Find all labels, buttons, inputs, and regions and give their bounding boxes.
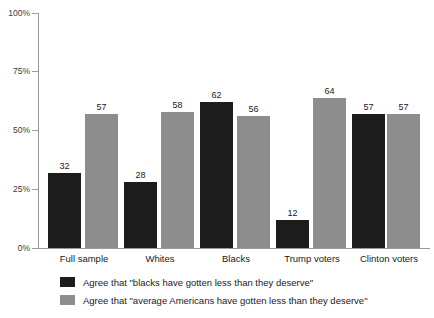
- x-axis-label-blacks: Blacks: [200, 253, 272, 265]
- x-axis-label-full-sample: Full sample: [48, 253, 120, 265]
- bar-label-blacks-series1: 62: [211, 90, 221, 100]
- bar-group-clinton-voters: 57 57: [352, 13, 424, 248]
- bar-group-whites: 28 58: [124, 13, 196, 248]
- bar-group-trump-voters: 12 64: [276, 13, 348, 248]
- legend-label-series1: Agree that "blacks have gotten less than…: [83, 277, 313, 288]
- bar-label-whites-series2: 58: [172, 100, 182, 110]
- bar-label-whites-series1: 28: [135, 170, 145, 180]
- plot-area: 32 57 28 58 62 56 12: [38, 13, 430, 248]
- bar-clinton-voters-series1[interactable]: 57: [352, 114, 385, 248]
- bar-chart: 0% 25% 50% 75% 100% 32 57 28 58 62: [0, 0, 434, 318]
- legend-swatch-series2: [60, 295, 75, 305]
- bar-whites-series1[interactable]: 28: [124, 182, 157, 248]
- bar-label-trump-voters-series2: 64: [324, 86, 334, 96]
- bar-full-sample-series1[interactable]: 32: [48, 173, 81, 248]
- x-axis-label-clinton-voters: Clinton voters: [352, 253, 426, 265]
- legend-item-series1[interactable]: Agree that "blacks have gotten less than…: [60, 274, 368, 290]
- bar-label-clinton-voters-series2: 57: [398, 102, 408, 112]
- y-axis-label-25: 25%: [0, 184, 30, 194]
- bar-trump-voters-series1[interactable]: 12: [276, 220, 309, 248]
- bar-label-blacks-series2: 56: [248, 104, 258, 114]
- x-axis-label-whites: Whites: [124, 253, 196, 265]
- legend: Agree that "blacks have gotten less than…: [60, 274, 368, 310]
- bar-blacks-series2[interactable]: 56: [237, 116, 270, 248]
- legend-swatch-series1: [60, 277, 75, 287]
- bar-group-full-sample: 32 57: [48, 13, 120, 248]
- bar-full-sample-series2[interactable]: 57: [85, 114, 118, 248]
- y-axis-label-50: 50%: [0, 125, 30, 135]
- bar-trump-voters-series2[interactable]: 64: [313, 98, 346, 248]
- legend-label-series2: Agree that "average Americans have gotte…: [83, 295, 368, 306]
- bar-label-full-sample-series2: 57: [96, 102, 106, 112]
- bar-label-trump-voters-series1: 12: [287, 208, 297, 218]
- x-axis-line: [38, 248, 430, 249]
- bar-clinton-voters-series2[interactable]: 57: [387, 114, 420, 248]
- legend-item-series2[interactable]: Agree that "average Americans have gotte…: [60, 292, 368, 308]
- bar-blacks-series1[interactable]: 62: [200, 102, 233, 248]
- bar-group-blacks: 62 56: [200, 13, 272, 248]
- bar-label-full-sample-series1: 32: [59, 161, 69, 171]
- y-tick-0: [32, 248, 38, 249]
- y-axis-label-0: 0%: [0, 243, 30, 253]
- bar-whites-series2[interactable]: 58: [161, 112, 194, 248]
- y-axis-label-100: 100%: [0, 8, 30, 18]
- bar-label-clinton-voters-series1: 57: [363, 102, 373, 112]
- x-axis-label-trump-voters: Trump voters: [276, 253, 348, 265]
- y-axis-label-75: 75%: [0, 66, 30, 76]
